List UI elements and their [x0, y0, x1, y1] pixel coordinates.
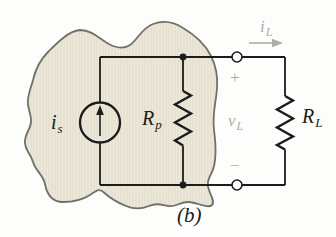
- current-source-label-main: i: [51, 111, 57, 133]
- parallel-resistor-label-main: R: [142, 107, 154, 129]
- parallel-resistor-label: Rp: [142, 108, 162, 131]
- voltage-plus-sign: +: [230, 69, 240, 86]
- load-resistor-label-main: R: [302, 105, 314, 127]
- load-current-label: iL: [260, 18, 272, 38]
- load-resistor-label: RL: [302, 106, 322, 129]
- terminal-top: [232, 52, 242, 62]
- junction-dot-bottom: [180, 182, 187, 189]
- load-voltage-label-main: v: [228, 111, 236, 130]
- current-source-label-sub: s: [58, 121, 63, 136]
- voltage-minus-sign: −: [230, 157, 240, 174]
- circuit-figure: is Rp RL vL iL + − (b): [0, 0, 336, 237]
- load-resistor-zigzag: [277, 96, 293, 150]
- load-current-label-sub: L: [266, 25, 273, 39]
- load-current-label-main: i: [260, 17, 265, 36]
- load-current-arrow-icon: [249, 39, 283, 48]
- current-source-label: is: [51, 112, 63, 135]
- figure-caption: (b): [177, 205, 202, 226]
- junction-dot-top: [180, 54, 187, 61]
- load-voltage-label: vL: [228, 112, 243, 132]
- terminal-bottom: [232, 180, 242, 190]
- load-voltage-label-sub: L: [237, 119, 244, 133]
- parallel-resistor-label-sub: p: [155, 117, 162, 132]
- load-resistor-label-sub: L: [315, 115, 322, 130]
